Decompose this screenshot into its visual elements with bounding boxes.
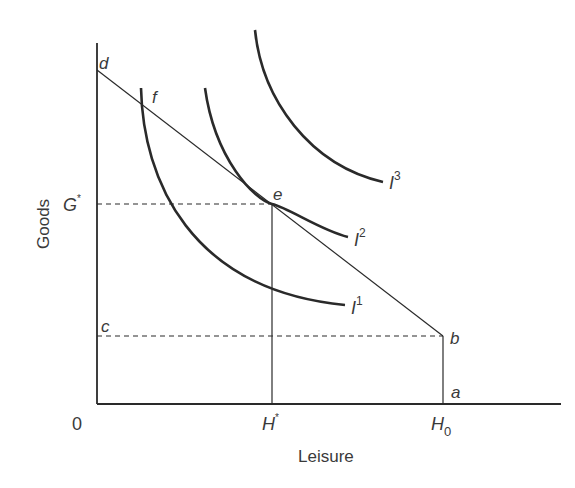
indifference-curve-i3 bbox=[255, 30, 383, 182]
point-label-a: a bbox=[451, 383, 460, 402]
indifference-curve-i1 bbox=[141, 88, 345, 305]
tick-label-g-star: G* bbox=[63, 193, 81, 215]
tick-label-h0: H0 bbox=[431, 414, 451, 439]
point-label-e: e bbox=[273, 185, 282, 204]
tick-label-h-star: H* bbox=[262, 412, 279, 434]
curve-label-i1: I1 bbox=[351, 294, 363, 318]
point-label-f: f bbox=[152, 88, 159, 107]
point-label-b: b bbox=[450, 329, 459, 348]
indifference-diagram: d f e c b a I1 I2 I3 G* H* H0 0 Leisure … bbox=[0, 0, 575, 488]
origin-label: 0 bbox=[72, 414, 82, 434]
x-axis-title: Leisure bbox=[298, 447, 354, 466]
point-label-c: c bbox=[101, 317, 110, 336]
curve-label-i2: I2 bbox=[354, 226, 366, 250]
curve-label-i3: I3 bbox=[389, 169, 401, 193]
y-axis-title: Goods bbox=[34, 199, 53, 249]
point-label-d: d bbox=[99, 54, 109, 73]
indifference-curve-i2 bbox=[205, 88, 348, 237]
